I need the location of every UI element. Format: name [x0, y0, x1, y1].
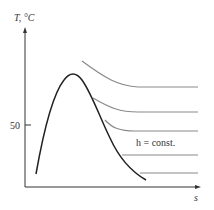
x-axis-arrow-icon	[195, 185, 201, 189]
isenthalp-line-1	[82, 61, 198, 87]
isenthalp-line-2	[93, 98, 198, 112]
y-tick-label: 50	[10, 120, 20, 131]
isenthalp-lines	[82, 61, 198, 173]
saturation-dome	[36, 74, 146, 180]
isenthalp-line-3	[105, 120, 198, 131]
t-s-diagram: T, °C 50 s h = const.	[0, 0, 214, 210]
x-axis-label: s	[194, 192, 198, 203]
isenthalp-label: h = const.	[136, 137, 175, 148]
y-axis-label: T, °C	[14, 12, 35, 23]
y-axis-arrow-icon	[23, 27, 27, 33]
